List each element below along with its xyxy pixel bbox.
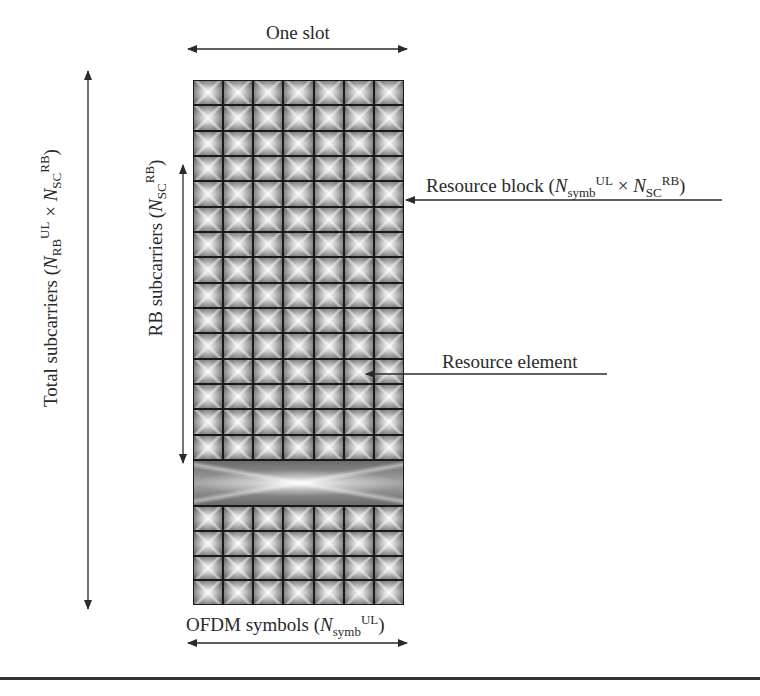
page-divider [0, 677, 760, 680]
one-slot-label: One slot [266, 23, 330, 42]
resource-block-label: Resource block (NsymbUL × NSCRB) [426, 176, 685, 195]
resource-element-label: Resource element [442, 352, 578, 371]
ofdm-symbols-label: OFDM symbols (NsymbUL) [186, 615, 385, 634]
total-subcarriers-label: Total subcarriers (NRBUL × NSCRB) [41, 149, 60, 407]
rb-subcarriers-label: RB subcarriers (NSCRB) [146, 160, 165, 337]
arrows-layer [0, 0, 760, 696]
